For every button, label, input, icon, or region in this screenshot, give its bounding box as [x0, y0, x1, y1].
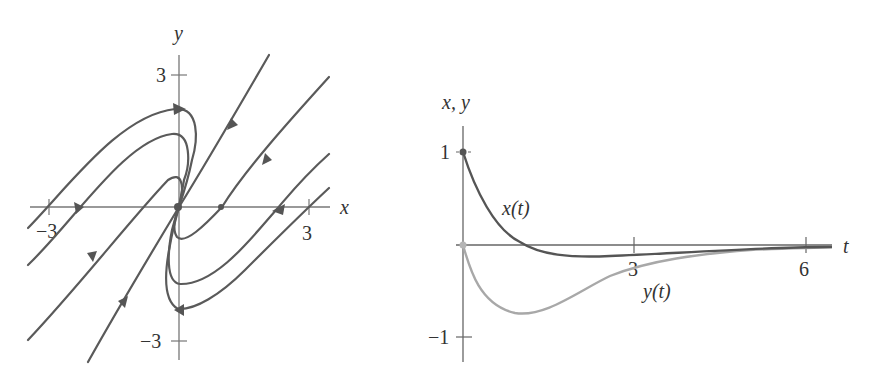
- tick-label-y-neg1: −1: [428, 326, 449, 348]
- marked-point: [218, 204, 224, 210]
- trajectory-8: [166, 188, 329, 309]
- trajectory-7: [169, 154, 329, 284]
- phase-portrait-plot: x y −3 3 3 −3: [28, 22, 349, 362]
- tick-label-y-pos3: 3: [156, 64, 166, 86]
- trajectory-2: [28, 134, 188, 265]
- tick-label-y-neg3: −3: [140, 330, 161, 352]
- arrow-icon: [262, 153, 272, 165]
- series-label-y: y(t): [641, 280, 671, 303]
- tick-label-t-6: 6: [799, 258, 809, 280]
- equilibrium-point: [174, 203, 182, 211]
- trajectory-1: [28, 109, 196, 228]
- y-axis-label: y: [172, 22, 183, 45]
- t-axis-label: t: [843, 235, 849, 257]
- tick-label-y-pos1: 1: [440, 141, 450, 163]
- tick-label-x-pos3: 3: [302, 222, 312, 244]
- vertical-axis-label: x, y: [441, 91, 470, 114]
- series-label-x: x(t): [501, 197, 530, 220]
- trajectory-6: [174, 77, 329, 239]
- solution-curves-plot: x, y t 1 −1 3 6 x(t) y(t): [428, 91, 849, 362]
- trajectory-5: [179, 55, 269, 207]
- x-axis-label: x: [339, 196, 349, 218]
- initial-point-x: [460, 149, 467, 156]
- arrow-icon: [87, 251, 97, 262]
- initial-point-y: [460, 242, 467, 249]
